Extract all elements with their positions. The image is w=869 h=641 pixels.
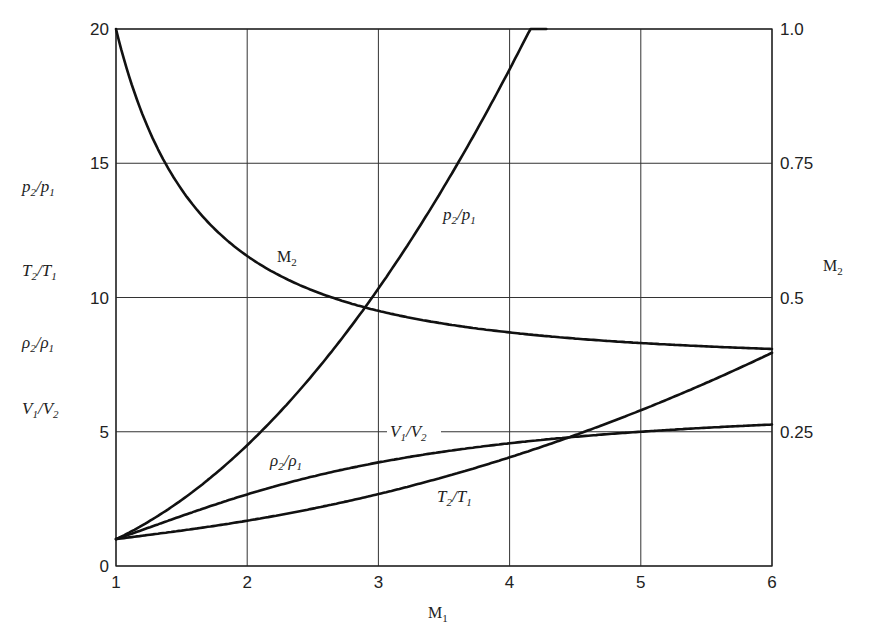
- right-y-tick-labels: 0.250.50.751.0: [780, 20, 813, 442]
- rho2-rho1-curve: [116, 425, 772, 540]
- left-y-tick: 20: [90, 20, 109, 39]
- curves: [116, 29, 772, 539]
- x-tick: 5: [636, 573, 645, 592]
- curve-label-density-ratio: ρ2/ρ1: [269, 451, 302, 472]
- p2-p1-curve: [116, 29, 546, 539]
- left-label-pressure-ratio: p2/p1: [21, 177, 55, 198]
- x-tick: 1: [111, 573, 120, 592]
- right-y-tick: 0.25: [780, 423, 813, 442]
- right-y-tick: 1.0: [780, 20, 804, 39]
- curve-label-pressure-ratio: p2/p1: [442, 205, 476, 226]
- left-axis-labels: p2/p1 T2/T1 ρ2/ρ1 V1/V2: [21, 177, 59, 420]
- left-y-tick: 15: [90, 154, 109, 173]
- curve-label-temperature-ratio: T2/T1: [437, 487, 472, 508]
- x-tick: 3: [374, 573, 383, 592]
- normal-shock-chart: 123456 05101520 0.250.50.751.0 M1 M2 p2/…: [0, 0, 869, 641]
- x-tick: 6: [767, 573, 776, 592]
- left-y-tick: 0: [100, 557, 109, 576]
- left-y-tick: 10: [90, 289, 109, 308]
- x-tick: 2: [242, 573, 251, 592]
- left-label-density-ratio: ρ2/ρ1: [21, 333, 54, 354]
- t2-t1-curve: [116, 353, 772, 539]
- grid-lines: [116, 29, 772, 566]
- right-y-tick: 0.75: [780, 154, 813, 173]
- right-y-tick: 0.5: [780, 289, 804, 308]
- left-label-temperature-ratio: T2/T1: [22, 261, 57, 282]
- x-axis-label: M1: [428, 604, 448, 624]
- left-y-tick: 5: [100, 423, 109, 442]
- x-tick-labels: 123456: [111, 573, 776, 592]
- left-y-tick-labels: 05101520: [90, 20, 109, 576]
- x-tick: 4: [505, 573, 514, 592]
- left-label-velocity-ratio: V1/V2: [22, 399, 59, 420]
- right-axis-label: M2: [823, 257, 843, 277]
- curve-label-m2: M2: [277, 248, 297, 268]
